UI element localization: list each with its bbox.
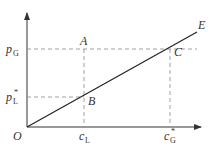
pL-sup: * (14, 88, 18, 97)
pG-label: p (5, 42, 12, 56)
cG-sub: G (170, 136, 176, 145)
pG-sub: G (13, 49, 19, 58)
cL-sub: L (85, 136, 90, 145)
pL-sub: L (13, 97, 18, 106)
line-OE (27, 32, 197, 127)
diagram-canvas: O E A B C p G p * L c L c * G (0, 0, 214, 157)
point-A-label: A (79, 34, 88, 48)
pL-label: p (5, 90, 12, 104)
origin-label: O (13, 129, 22, 143)
point-B-label: B (88, 94, 96, 108)
point-C-label: C (174, 45, 183, 59)
cG-sup: * (171, 127, 175, 136)
line-E-label: E (197, 18, 206, 32)
